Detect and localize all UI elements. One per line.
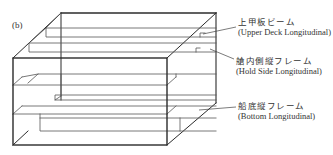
label-upper-deck-jp: 上甲板ビーム: [238, 17, 331, 27]
bottom-longitudinals: [13, 95, 216, 131]
label-upper-deck-en: (Upper Deck Longitudinal): [238, 27, 331, 37]
label-hold-side-jp: 艙内側縦フレーム: [236, 56, 322, 66]
depth-edges: [13, 13, 216, 145]
hold-side-longitudinals: [13, 74, 216, 96]
panel-label: (b): [12, 20, 23, 30]
label-bottom: 船底縦フレーム (Bottom Longitudinal): [238, 101, 315, 121]
label-bottom-jp: 船底縦フレーム: [238, 101, 315, 111]
upper-deck-longitudinals: [29, 13, 216, 52]
label-upper-deck: 上甲板ビーム (Upper Deck Longitudinal): [238, 17, 331, 37]
leader-lines: [199, 27, 236, 110]
label-hold-side: 艙内側縦フレーム (Hold Side Longitudinal): [236, 56, 322, 76]
label-hold-side-en: (Hold Side Longitudinal): [236, 66, 322, 76]
label-bottom-en: (Bottom Longitudinal): [238, 111, 315, 121]
front-face: [13, 58, 167, 145]
